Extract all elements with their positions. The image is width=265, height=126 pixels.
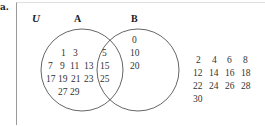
outside-element: 4 xyxy=(212,55,217,65)
set-a-element: 11 xyxy=(70,61,79,71)
outside-element: 24 xyxy=(209,81,219,91)
outside-element: 28 xyxy=(241,81,251,91)
set-b-label: B xyxy=(131,13,138,24)
set-a-element: 21 xyxy=(71,74,81,84)
set-b-element: 20 xyxy=(130,61,140,71)
intersection-element: 25 xyxy=(100,74,110,84)
set-a-element: 19 xyxy=(58,74,68,84)
set-a-element: 17 xyxy=(46,74,56,84)
outside-element: 2 xyxy=(196,55,201,65)
outside-element: 22 xyxy=(193,81,203,91)
outside-element: 18 xyxy=(241,68,251,78)
venn-diagram: U A B 1 3 7 9 11 13 17 19 21 23 27 29 5 … xyxy=(0,0,265,126)
set-a-circle xyxy=(41,29,123,111)
set-a-element: 13 xyxy=(84,61,94,71)
set-b-element: 10 xyxy=(130,48,140,58)
outside-element: 16 xyxy=(225,68,235,78)
set-a-element: 7 xyxy=(48,61,53,71)
outside-element: 26 xyxy=(225,81,235,91)
set-a-element: 27 xyxy=(58,87,68,97)
outside-element: 30 xyxy=(193,94,203,104)
outside-element: 14 xyxy=(209,68,219,78)
set-a-element: 3 xyxy=(73,48,78,58)
outside-element: 8 xyxy=(243,55,248,65)
universe-label: U xyxy=(32,12,41,24)
set-a-element: 29 xyxy=(70,87,80,97)
set-a-element: 1 xyxy=(61,48,66,58)
set-a-element: 23 xyxy=(84,74,94,84)
outside-element: 12 xyxy=(193,68,203,78)
intersection-element: 5 xyxy=(102,48,107,58)
set-a-element: 9 xyxy=(60,61,65,71)
set-a-label: A xyxy=(74,13,82,24)
set-b-element: 0 xyxy=(132,35,137,45)
outside-element: 6 xyxy=(227,55,232,65)
intersection-element: 15 xyxy=(100,61,110,71)
